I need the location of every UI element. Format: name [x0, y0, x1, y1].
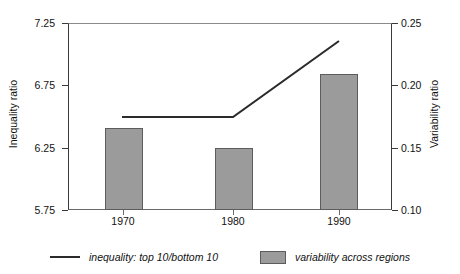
right-axis-title: Variability ratio: [428, 54, 440, 174]
left-axis-tick: [62, 148, 68, 149]
bar-swatch-icon: [260, 251, 286, 264]
bar-1990: [320, 74, 358, 210]
legend-entry-inequality: inequality: top 10/bottom 10: [50, 251, 218, 263]
chart-figure: 7.25 6.75 6.25 5.75 0.25 0.20 0.15 0.10 …: [0, 0, 460, 274]
right-axis-tick: [392, 85, 398, 86]
right-axis-label-3: 0.10: [401, 204, 421, 216]
left-axis-tick: [62, 210, 68, 211]
right-axis-tick: [392, 148, 398, 149]
right-axis-tick: [392, 23, 398, 24]
left-axis-tick: [62, 23, 68, 24]
bar-1980: [215, 148, 253, 210]
line-marker-icon: [50, 256, 80, 258]
x-axis-label-1980: 1980: [198, 215, 268, 227]
left-axis-tick: [62, 85, 68, 86]
left-axis-label-0: 7.25: [35, 17, 55, 29]
right-axis-label-1: 0.20: [401, 79, 421, 91]
bar-1970: [105, 128, 143, 210]
legend-label-inequality: inequality: top 10/bottom 10: [89, 251, 218, 263]
legend-label-variability: variability across regions: [295, 251, 410, 263]
legend-entry-variability: variability across regions: [260, 251, 410, 264]
left-axis-title: Inequality ratio: [7, 54, 19, 174]
left-axis-label-1: 6.75: [35, 79, 55, 91]
right-axis-tick: [392, 210, 398, 211]
left-axis-label-3: 5.75: [35, 204, 55, 216]
x-axis-label-1990: 1990: [304, 215, 374, 227]
x-axis-label-1970: 1970: [88, 215, 158, 227]
right-axis-label-0: 0.25: [401, 17, 421, 29]
right-axis-label-2: 0.15: [401, 142, 421, 154]
chart-legend: inequality: top 10/bottom 10 variability…: [0, 246, 460, 268]
left-axis-label-2: 6.25: [35, 142, 55, 154]
